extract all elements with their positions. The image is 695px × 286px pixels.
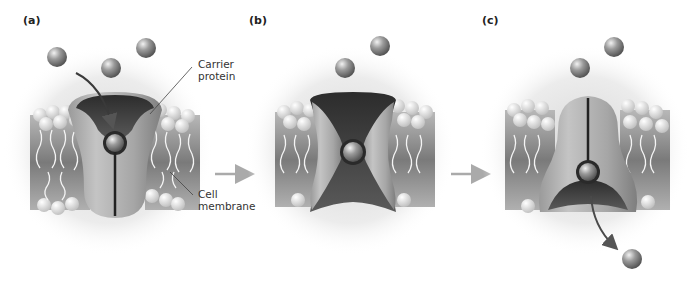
cell-membrane-label: Cell membrane xyxy=(198,188,255,212)
solute-molecule-icon xyxy=(570,58,590,78)
solute-molecule-icon xyxy=(343,142,363,162)
panel-label-c: (c) xyxy=(482,14,499,27)
solute-molecule-icon xyxy=(604,37,624,57)
solute-molecule-icon xyxy=(101,58,121,78)
panel-label-b: (b) xyxy=(249,14,267,27)
solute-molecule-icon xyxy=(370,36,390,56)
panel-a xyxy=(3,38,213,255)
panel-label-a: (a) xyxy=(23,14,40,27)
solute-molecule-icon xyxy=(106,134,124,152)
solute-molecule-icon xyxy=(622,249,642,269)
solute-molecule-icon xyxy=(136,38,156,58)
panel-c xyxy=(480,37,690,269)
cell-membrane-label-line2: membrane xyxy=(198,200,255,212)
carrier-protein-label-line2: protein xyxy=(198,70,235,82)
panel-b xyxy=(245,36,455,255)
diagram-canvas xyxy=(0,0,695,286)
carrier-protein-label: Carrier protein xyxy=(198,58,235,82)
solute-molecule-icon xyxy=(579,163,597,181)
cell-membrane-label-line1: Cell xyxy=(198,188,255,200)
solute-molecule-icon xyxy=(47,47,67,67)
solute-molecule-icon xyxy=(335,58,355,78)
carrier-protein-label-line1: Carrier xyxy=(198,58,235,70)
